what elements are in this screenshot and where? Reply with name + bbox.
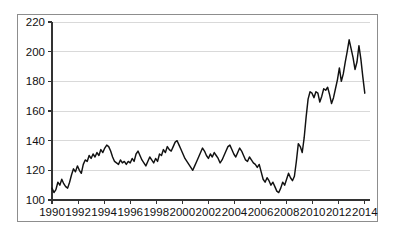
x-tick-label: 2008 [274,206,300,218]
x-tick-labels: 1990199219941996199820002002200420062008… [39,206,378,218]
data-series [52,40,365,193]
y-tick-label: 100 [26,194,45,206]
series-line-index [52,40,365,193]
x-tick-label: 1994 [91,206,117,218]
x-tick-label: 2012 [326,206,352,218]
y-tick-label: 220 [26,16,45,28]
y-tick-label: 200 [26,46,45,58]
y-tick-label: 140 [26,135,45,147]
x-tick-label: 1990 [39,206,65,218]
chart-figure: 100120140160180200220 199019921994199619… [0,0,397,237]
x-tick-label: 2006 [248,206,274,218]
x-tick-label: 2014 [352,206,378,218]
x-tick-label: 2004 [222,206,248,218]
gridlines [52,22,370,200]
x-tick-label: 1992 [65,206,91,218]
y-tick-label: 120 [26,164,45,176]
y-tick-label: 160 [26,105,45,117]
y-axis [48,22,52,200]
y-tick-labels: 100120140160180200220 [26,16,45,206]
x-tick-label: 1998 [143,206,169,218]
x-tick-label: 1996 [117,206,143,218]
line-chart: 100120140160180200220 199019921994199619… [0,0,397,237]
x-tick-label: 2000 [170,206,196,218]
x-tick-label: 2010 [300,206,326,218]
y-tick-label: 180 [26,75,45,87]
x-axis [52,200,370,204]
x-tick-label: 2002 [196,206,222,218]
